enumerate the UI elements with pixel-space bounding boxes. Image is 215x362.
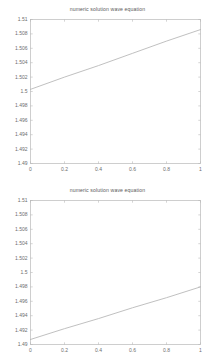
y-tick-label: 1.506 bbox=[2, 227, 28, 232]
y-tick-label: 1.494 bbox=[2, 313, 28, 318]
y-tick-label: 1.5 bbox=[2, 270, 28, 275]
plot-panel-top: numeric solution wave equation 1.491.492… bbox=[0, 0, 215, 181]
x-tick-label: 0.8 bbox=[159, 167, 175, 172]
axes-bottom bbox=[0, 181, 215, 362]
y-tick-label: 1.494 bbox=[2, 132, 28, 137]
x-tick-label: 0.4 bbox=[91, 167, 107, 172]
data-line bbox=[31, 30, 201, 90]
y-tick-label: 1.502 bbox=[2, 75, 28, 80]
x-tick-label: 0.4 bbox=[91, 348, 107, 353]
x-tick-label: 0 bbox=[23, 167, 39, 172]
x-tick-label: 0.6 bbox=[125, 167, 141, 172]
axes-top bbox=[0, 0, 215, 181]
y-tick-label: 1.508 bbox=[2, 31, 28, 36]
y-tick-label: 1.508 bbox=[2, 212, 28, 217]
x-tick-label: 1 bbox=[193, 167, 209, 172]
y-tick-label: 1.492 bbox=[2, 147, 28, 152]
y-tick-label: 1.504 bbox=[2, 60, 28, 65]
y-tick-label: 1.506 bbox=[2, 46, 28, 51]
y-tick-label: 1.498 bbox=[2, 284, 28, 289]
y-tick-label: 1.51 bbox=[2, 198, 28, 203]
x-tick-label: 1 bbox=[193, 348, 209, 353]
figure-window: numeric solution wave equation 1.491.492… bbox=[0, 0, 215, 362]
axes-box bbox=[31, 20, 201, 164]
x-tick-label: 0 bbox=[23, 348, 39, 353]
y-tick-label: 1.496 bbox=[2, 118, 28, 123]
y-tick-label: 1.496 bbox=[2, 299, 28, 304]
axes-box bbox=[31, 201, 201, 345]
y-tick-label: 1.498 bbox=[2, 103, 28, 108]
x-tick-label: 0.2 bbox=[57, 167, 73, 172]
y-tick-label: 1.492 bbox=[2, 328, 28, 333]
plot-panel-bottom: numeric solution wave equation 1.491.492… bbox=[0, 181, 215, 362]
y-tick-label: 1.49 bbox=[2, 161, 28, 166]
y-tick-label: 1.5 bbox=[2, 89, 28, 94]
data-line bbox=[31, 287, 201, 340]
x-tick-label: 0.2 bbox=[57, 348, 73, 353]
y-tick-label: 1.504 bbox=[2, 241, 28, 246]
x-tick-label: 0.8 bbox=[159, 348, 175, 353]
y-tick-label: 1.51 bbox=[2, 17, 28, 22]
y-tick-label: 1.502 bbox=[2, 256, 28, 261]
y-tick-label: 1.49 bbox=[2, 342, 28, 347]
x-tick-label: 0.6 bbox=[125, 348, 141, 353]
